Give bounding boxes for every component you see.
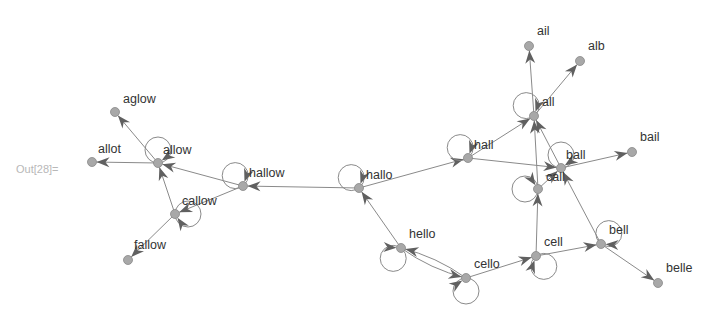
node-label-cello: cello xyxy=(474,257,500,271)
node-label-ail: ail xyxy=(537,24,550,38)
node-all[interactable] xyxy=(530,112,539,121)
node-hall[interactable] xyxy=(464,154,473,163)
node-label-aglow: aglow xyxy=(123,92,157,106)
node-allot[interactable] xyxy=(88,158,97,167)
edge-hallo-to-hallow xyxy=(247,181,359,191)
edge-cell-to-call xyxy=(533,193,543,256)
node-label-fallow: fallow xyxy=(134,238,167,252)
arrow-head-icon xyxy=(565,65,577,78)
node-hello[interactable] xyxy=(397,244,406,253)
node-bail[interactable] xyxy=(628,148,637,157)
arrow-head-icon xyxy=(383,242,396,252)
node-ail[interactable] xyxy=(525,42,534,51)
node-label-ball: ball xyxy=(566,148,585,162)
node-label-hallo: hallo xyxy=(366,168,392,182)
node-label-belle: belle xyxy=(666,261,692,275)
arrow-head-icon xyxy=(536,120,546,134)
node-cello[interactable] xyxy=(462,274,471,283)
node-allow[interactable] xyxy=(154,159,163,168)
edge-bell-to-belle xyxy=(601,244,654,281)
node-alb[interactable] xyxy=(576,57,585,66)
graph-edges xyxy=(96,50,654,280)
node-bell[interactable] xyxy=(597,240,606,249)
edge-ball-to-all xyxy=(536,120,561,168)
edge-all-to-ail xyxy=(525,50,535,116)
graph-labels: aglowallotallowhallowcallowfallowhalloha… xyxy=(98,24,692,275)
arrow-head-icon xyxy=(524,172,535,186)
node-label-hello: hello xyxy=(409,227,435,241)
node-label-cell: cell xyxy=(544,235,563,249)
node-fallow[interactable] xyxy=(124,256,133,265)
node-label-bail: bail xyxy=(640,130,659,144)
arrow-head-icon xyxy=(526,260,535,274)
node-belle[interactable] xyxy=(654,279,663,288)
node-label-callow: callow xyxy=(182,194,218,208)
node-aglow[interactable] xyxy=(111,108,120,117)
word-graph: aglowallotallowhallowcallowfallowhalloha… xyxy=(0,0,710,324)
node-label-all: all xyxy=(542,95,555,109)
node-label-call: call xyxy=(546,170,565,184)
arrow-head-icon xyxy=(118,115,130,128)
edge-allow-to-aglow xyxy=(118,115,158,163)
node-cell[interactable] xyxy=(532,252,541,261)
node-hallo[interactable] xyxy=(355,184,364,193)
self-loop-all xyxy=(513,93,544,119)
node-label-allow: allow xyxy=(163,143,192,157)
node-label-alb: alb xyxy=(588,39,605,53)
node-call[interactable] xyxy=(534,185,543,194)
arrow-head-icon xyxy=(362,192,374,206)
edge-callow-to-allow xyxy=(159,167,175,214)
node-label-hall: hall xyxy=(474,138,493,152)
arrow-head-icon xyxy=(178,218,189,232)
node-label-bell: bell xyxy=(609,223,628,237)
node-callow[interactable] xyxy=(171,210,180,219)
arrow-head-icon xyxy=(517,118,531,129)
edge-hall-to-ball xyxy=(468,158,557,171)
edge-all-to-alb xyxy=(534,64,577,116)
arrow-head-icon xyxy=(641,269,655,281)
node-label-allot: allot xyxy=(98,142,121,156)
edge-hallow-to-allow xyxy=(162,163,243,186)
arrow-head-icon xyxy=(449,281,463,292)
edge-hello-to-hallo xyxy=(362,192,401,248)
node-hallow[interactable] xyxy=(239,182,248,191)
node-label-hallow: hallow xyxy=(249,166,285,180)
